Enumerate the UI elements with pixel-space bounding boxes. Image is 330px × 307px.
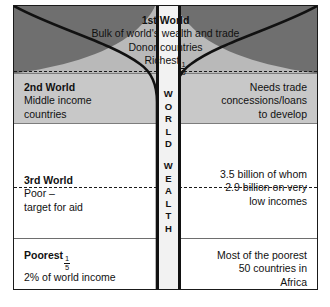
channel-letter: W [164, 160, 173, 173]
third-world-left-text: 3rd World Poor – target for aid [24, 174, 83, 214]
third-world-right-text: 3.5 billion of whom 2.9 billion on very … [220, 168, 307, 208]
third-world-heading: 3rd World [24, 174, 83, 187]
channel-letter: R [165, 113, 172, 126]
poorest-right-line-3: Africa [217, 276, 307, 289]
second-world-right-line-1: Needs trade [221, 81, 307, 94]
fraction-one-fifth: 15 [180, 61, 186, 77]
channel-letter: D [165, 138, 172, 151]
channel-vertical-letters: W O R L D W E A L T H [159, 88, 178, 236]
channel-letter: E [165, 173, 172, 186]
first-world-line-3: Donor countries [14, 41, 317, 54]
poorest-right-line-2: 50 countries in [217, 262, 307, 275]
channel-letter: O [165, 101, 173, 114]
poorest-right-text: Most of the poorest 50 countries in Afri… [217, 249, 307, 289]
channel-letter: T [165, 210, 171, 223]
first-world-richest-label: Richest [144, 54, 179, 66]
second-world-left-line-2: Middle income [24, 94, 92, 107]
channel-letter: W [164, 88, 173, 101]
third-world-left-line-2: Poor – [24, 187, 83, 200]
third-world-right-line-2: 2.9 billion on very [220, 181, 307, 194]
poorest-left-line-2: 2% of world income [24, 271, 116, 284]
third-world-left-line-3: target for aid [24, 201, 83, 214]
second-world-left-text: 2nd World Middle income countries [24, 81, 92, 121]
second-world-left-line-3: countries [24, 108, 92, 121]
third-world-right-line-3: low incomes [220, 195, 307, 208]
fraction-one-fifth: 15 [64, 255, 70, 271]
poorest-left-text: Poorest15 2% of world income [24, 249, 116, 285]
second-world-right-text: Needs trade concessions/loans to develop [221, 81, 307, 121]
second-world-right-line-3: to develop [221, 108, 307, 121]
channel-letter: L [165, 126, 171, 139]
channel-letter: A [165, 185, 172, 198]
first-world-line-2: Bulk of world's wealth and trade [14, 27, 317, 40]
second-world-right-line-2: concessions/loans [221, 94, 307, 107]
poorest-heading-label: Poorest [24, 249, 63, 261]
channel-letter: H [165, 223, 172, 236]
first-world-richest-line: Richest15 [14, 54, 317, 76]
poorest-right-line-1: Most of the poorest [217, 249, 307, 262]
third-world-right-line-1: 3.5 billion of whom [220, 168, 307, 181]
world-wealth-diagram: W O R L D W E A L T H 1st World Bulk of … [13, 5, 318, 290]
second-world-heading: 2nd World [24, 81, 92, 94]
first-world-text-block: 1st World Bulk of world's wealth and tra… [14, 14, 317, 77]
poorest-heading: Poorest15 [24, 249, 116, 271]
first-world-heading: 1st World [14, 14, 317, 27]
channel-letter: L [165, 198, 171, 211]
